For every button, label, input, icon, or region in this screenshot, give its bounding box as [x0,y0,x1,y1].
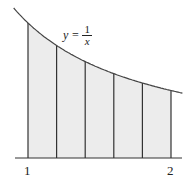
fraction-denominator: x [85,36,90,47]
curve-equation-label: y = 1 x [63,24,92,47]
plot-area [0,0,191,183]
fraction: 1 x [82,24,92,47]
x-label-2: 2 [167,164,174,177]
x-label-1: 1 [24,164,31,177]
figure: y = 1 x 1 2 [0,0,191,183]
shaded-area [28,23,171,158]
equation-lhs: y = [63,28,79,43]
